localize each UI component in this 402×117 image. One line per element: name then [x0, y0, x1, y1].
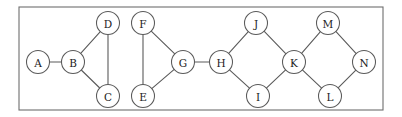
graph-edge-F-G	[151, 31, 175, 54]
graph-node-A[interactable]: A	[27, 51, 50, 74]
graph-edge-J-K	[264, 31, 286, 54]
node-circle-G[interactable]	[172, 51, 195, 74]
graph-node-F[interactable]: F	[132, 12, 155, 35]
graph-node-H[interactable]: H	[210, 51, 233, 74]
node-layer: ABCDEFGHIJKLMN	[27, 12, 376, 108]
graph-node-J[interactable]: J	[245, 12, 268, 35]
graph-edge-H-I	[229, 70, 249, 88]
graph-edge-I-K	[266, 70, 285, 88]
graph-figure: ABCDEFGHIJKLMN	[0, 0, 402, 117]
node-circle-J[interactable]	[245, 12, 268, 35]
node-circle-H[interactable]	[210, 51, 233, 74]
node-circle-A[interactable]	[27, 51, 50, 74]
node-circle-N[interactable]	[353, 51, 376, 74]
graph-node-M[interactable]: M	[317, 12, 340, 35]
node-circle-K[interactable]	[283, 51, 306, 74]
graph-node-I[interactable]: I	[247, 85, 270, 108]
node-circle-L[interactable]	[319, 85, 342, 108]
node-circle-C[interactable]	[97, 85, 120, 108]
graph-edge-H-J	[229, 32, 249, 54]
graph-node-N[interactable]: N	[353, 51, 376, 74]
graph-node-E[interactable]: E	[132, 85, 155, 108]
graph-node-D[interactable]: D	[97, 12, 120, 35]
graph-edge-M-N	[336, 31, 356, 53]
graph-edge-L-N	[338, 70, 356, 88]
graph-node-C[interactable]: C	[97, 85, 120, 108]
graph-canvas: ABCDEFGHIJKLMN	[0, 0, 402, 117]
node-circle-I[interactable]	[247, 85, 270, 108]
graph-node-K[interactable]: K	[283, 51, 306, 74]
node-circle-E[interactable]	[132, 85, 155, 108]
graph-edge-K-L	[302, 70, 321, 88]
graph-edge-K-M	[302, 32, 321, 54]
node-circle-D[interactable]	[97, 12, 120, 35]
graph-edge-B-C	[81, 70, 100, 88]
node-circle-M[interactable]	[317, 12, 340, 35]
graph-node-G[interactable]: G	[172, 51, 195, 74]
graph-node-B[interactable]: B	[62, 51, 85, 74]
node-circle-F[interactable]	[132, 12, 155, 35]
node-circle-B[interactable]	[62, 51, 85, 74]
graph-edge-E-G	[152, 69, 174, 88]
edge-layer	[50, 31, 357, 89]
graph-node-L[interactable]: L	[319, 85, 342, 108]
graph-edge-B-D	[81, 32, 101, 54]
